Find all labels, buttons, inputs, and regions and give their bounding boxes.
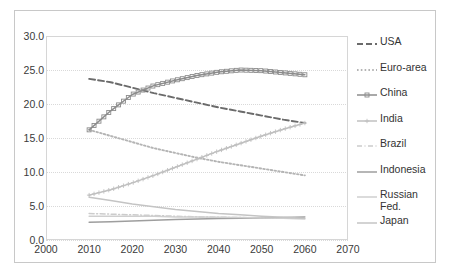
legend-label: Japan	[378, 215, 409, 227]
legend-label: Indonesia	[378, 164, 426, 176]
legend-item-brazil[interactable]: Brazil	[356, 138, 434, 164]
legend-swatch-icon	[356, 114, 378, 128]
legend-label: Brazil	[378, 138, 406, 150]
legend-label: China	[378, 87, 407, 99]
series-china	[87, 68, 307, 132]
x-tick-label: 2050	[239, 243, 285, 255]
x-tick-label: 2070	[325, 243, 371, 255]
legend-swatch-icon	[356, 216, 378, 230]
legend-label: India	[378, 113, 403, 125]
legend-label: Russian Fed.	[378, 189, 418, 212]
legend-item-russian-fed[interactable]: Russian Fed.	[356, 189, 434, 215]
series-euro-area	[89, 130, 305, 176]
series-india	[87, 121, 307, 197]
x-tick-label: 2030	[152, 243, 198, 255]
legend-item-usa[interactable]: USA	[356, 36, 434, 62]
legend-item-euro-area[interactable]: Euro-area	[356, 62, 434, 88]
chart-legend: USAEuro-areaChinaIndiaBrazilIndonesiaRus…	[356, 36, 434, 240]
y-tick-label: 10.0	[6, 166, 44, 178]
legend-item-indonesia[interactable]: Indonesia	[356, 164, 434, 190]
legend-label: USA	[378, 36, 402, 48]
y-tick-label: 15.0	[6, 132, 44, 144]
y-tick-label: 20.0	[6, 98, 44, 110]
legend-swatch-icon	[356, 190, 378, 204]
legend-item-india[interactable]: India	[356, 113, 434, 139]
x-tick-label: 2020	[109, 243, 155, 255]
x-tick-label: 2010	[66, 243, 112, 255]
legend-swatch-icon	[356, 88, 378, 102]
y-tick-label: 30.0	[6, 30, 44, 42]
x-tick-label: 2040	[196, 243, 242, 255]
y-tick-label: 5.0	[6, 200, 44, 212]
legend-swatch-icon	[356, 139, 378, 153]
legend-item-japan[interactable]: Japan	[356, 215, 434, 241]
gridline	[46, 240, 348, 241]
x-tick-label: 2060	[282, 243, 328, 255]
y-tick-label: 25.0	[6, 64, 44, 76]
series-japan	[89, 197, 305, 218]
chart-series-layer	[46, 36, 348, 240]
legend-swatch-icon	[356, 37, 378, 51]
chart-figure: 0.05.010.015.020.025.030.0 2000201020202…	[0, 0, 452, 280]
legend-item-china[interactable]: China	[356, 87, 434, 113]
legend-swatch-icon	[356, 165, 378, 179]
legend-label: Euro-area	[378, 62, 427, 74]
x-tick-label: 2000	[23, 243, 69, 255]
legend-swatch-icon	[356, 63, 378, 77]
